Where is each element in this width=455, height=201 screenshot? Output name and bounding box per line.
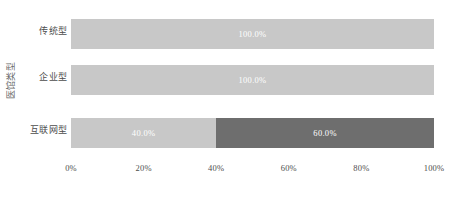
x-tick-label-4: 80%: [353, 163, 369, 173]
bar-segment-label: 60.0%: [313, 128, 336, 138]
y-tick-label-2: 互联网型: [22, 123, 67, 136]
bar-segment[interactable]: 40.0%: [71, 118, 216, 148]
x-axis: 0%20%40%60%80%100%: [71, 163, 434, 181]
x-tick-label-0: 0%: [65, 163, 77, 173]
y-axis-title-text: 医馆类型: [5, 61, 18, 99]
bar-segment[interactable]: 100.0%: [71, 65, 434, 95]
plot-area: 100.0% 100.0% 40.0% 60.0%: [71, 10, 434, 157]
y-axis-title: 医馆类型: [0, 0, 22, 160]
bar-segment[interactable]: 60.0%: [216, 118, 434, 148]
stacked-bar-chart: 医馆类型 传统型 企业型 互联网型 100.0% 100.0% 40.0% 60…: [0, 0, 455, 201]
y-tick-label-1: 企业型: [22, 70, 67, 83]
x-tick-label-5: 100%: [424, 163, 445, 173]
x-tick-label-3: 60%: [281, 163, 297, 173]
bar-row[interactable]: 100.0%: [71, 19, 434, 49]
bar-segment-label: 40.0%: [132, 128, 155, 138]
bar-row[interactable]: 100.0%: [71, 65, 434, 95]
x-tick-label-2: 40%: [208, 163, 224, 173]
bar-row[interactable]: 40.0% 60.0%: [71, 118, 434, 148]
y-tick-label-0: 传统型: [22, 24, 67, 37]
bar-segment-label: 100.0%: [238, 75, 266, 85]
bar-segment[interactable]: 100.0%: [71, 19, 434, 49]
bar-segment-label: 100.0%: [238, 29, 266, 39]
x-tick-label-1: 20%: [136, 163, 152, 173]
